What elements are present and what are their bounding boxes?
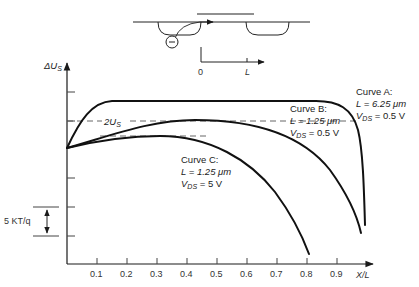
x-tick-label: 0.6: [240, 269, 253, 279]
x-tick-labels: 0.1 0.2 0.3 0.4 0.5 0.6 0.7 0.8 0.9: [90, 269, 343, 279]
curve-b-title: Curve B:: [290, 103, 327, 114]
curve-a-length: L = 6.25 μm: [356, 98, 406, 109]
legend-curve-a: Curve A: L = 6.25 μm VDS = 0.5 V: [356, 86, 406, 122]
x-tick-label: 0.4: [180, 269, 193, 279]
curve-c-length: L = 1.25 μm: [181, 166, 231, 177]
legend-curve-c: Curve C: L = 1.25 μm VDS = 5 V: [181, 154, 231, 190]
figure: 0 L 0.1 0.2 0.3 0.4: [0, 0, 419, 287]
curve-b-vds: VDS = 0.5 V: [290, 127, 340, 139]
device-sketch: 0 L: [133, 14, 310, 77]
drain-well: [246, 22, 289, 35]
sketch-length-label: L: [245, 67, 250, 77]
x-tick-label: 0.9: [330, 269, 343, 279]
legend-curve-b: Curve B: L = 1.25 μm VDS = 0.5 V: [290, 103, 340, 139]
y-axis-label: ΔUS: [43, 60, 62, 72]
x-ticks: [97, 258, 337, 264]
x-axis-label: X/L: [355, 270, 370, 280]
x-tick-label: 0.8: [300, 269, 313, 279]
source-well: [158, 22, 201, 35]
x-tick-label: 0.5: [210, 269, 223, 279]
curve-c-title: Curve C:: [181, 154, 218, 165]
curve-b-length: L = 1.25 μm: [290, 115, 340, 126]
x-tick-label: 0.1: [90, 269, 103, 279]
curve-a-title: Curve A:: [356, 86, 392, 97]
curve-a-vds: VDS = 0.5 V: [356, 110, 406, 122]
ref-2us-label: 2US: [103, 116, 121, 128]
scale-label: 5 KT/q: [4, 216, 31, 226]
scale-annotation: 5 KT/q: [4, 207, 59, 236]
x-tick-label: 0.3: [150, 269, 163, 279]
carrier-path: [175, 22, 200, 38]
x-tick-label: 0.7: [270, 269, 283, 279]
curve-c-vds: VDS = 5 V: [181, 178, 223, 190]
x-tick-label: 0.2: [120, 269, 133, 279]
y-ticks: [67, 92, 75, 236]
sketch-origin-label: 0: [198, 67, 203, 77]
